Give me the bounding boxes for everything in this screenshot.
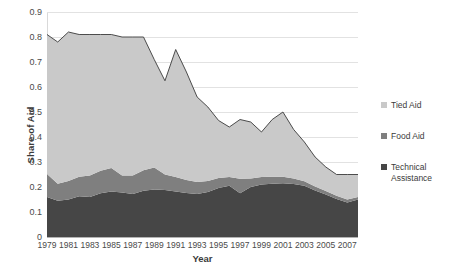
x-axis-tick-label: 1985 bbox=[102, 241, 121, 250]
y-axis-tick-label: 0.3 bbox=[29, 158, 42, 167]
x-axis-tick-label: 2003 bbox=[295, 241, 314, 250]
x-axis-tick-label: 1989 bbox=[145, 241, 164, 250]
y-axis-tick-label: 0.6 bbox=[29, 83, 42, 92]
x-axis-tick-label: 1993 bbox=[188, 241, 207, 250]
legend-swatch-icon bbox=[381, 102, 387, 108]
x-axis-tick-label: 2005 bbox=[316, 241, 335, 250]
x-axis-tick-label: 1999 bbox=[252, 241, 271, 250]
y-axis-tick-label: 0.7 bbox=[29, 58, 42, 67]
x-axis-tick-label: 1995 bbox=[209, 241, 228, 250]
legend-item-label: Technical Assistance bbox=[391, 162, 459, 184]
legend-item-label: Tied Aid bbox=[391, 100, 421, 111]
y-axis-tick-label: 0.5 bbox=[29, 108, 42, 117]
stacked-areas bbox=[47, 12, 358, 237]
legend-swatch-icon bbox=[381, 164, 387, 170]
legend-swatch-icon bbox=[381, 133, 387, 139]
x-axis-tick-label: 2001 bbox=[273, 241, 292, 250]
y-axis-tick-label: 0.4 bbox=[29, 133, 42, 142]
x-axis-tick-label: 1991 bbox=[166, 241, 185, 250]
y-axis-tick-label: 0.1 bbox=[29, 208, 42, 217]
y-axis-tick-label: 0.9 bbox=[29, 8, 42, 17]
legend-item-label: Food Aid bbox=[391, 131, 425, 142]
x-axis-tick-label: 2007 bbox=[338, 241, 357, 250]
x-axis-tick-label: 1979 bbox=[38, 241, 57, 250]
x-axis-tick-label: 1981 bbox=[59, 241, 78, 250]
plot-area: 0.90.80.70.60.50.40.30.20.10 19791981198… bbox=[47, 12, 358, 237]
legend-item[interactable]: Food Aid bbox=[381, 131, 459, 142]
y-axis-tick-label: 0.8 bbox=[29, 33, 42, 42]
legend-item[interactable]: Tied Aid bbox=[381, 100, 459, 111]
x-axis-title: Year bbox=[47, 253, 358, 264]
x-axis-tick-label: 1987 bbox=[123, 241, 142, 250]
area-chart: Share of Aid Year 0.90.80.70.60.50.40.30… bbox=[0, 0, 461, 269]
y-axis-tick-label: 0.2 bbox=[29, 183, 42, 192]
x-axis-tick-label: 1997 bbox=[231, 241, 250, 250]
chart-legend: Tied AidFood AidTechnical Assistance bbox=[381, 100, 459, 204]
gridline bbox=[47, 237, 358, 238]
x-axis-tick-label: 1983 bbox=[80, 241, 99, 250]
legend-item[interactable]: Technical Assistance bbox=[381, 162, 459, 184]
